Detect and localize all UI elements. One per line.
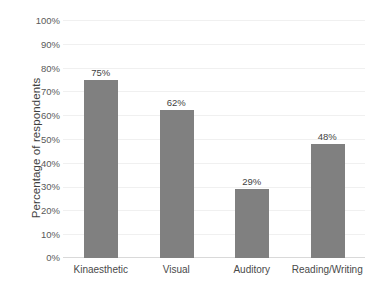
y-tick-label: 0% [20,253,60,263]
x-tick-label-reading-writing: Reading/Writing [280,263,375,276]
bars-layer: 75% 62% 29% 48% [63,20,365,258]
bar-slot-reading-writing: 48% [290,20,366,258]
y-tick-label: 100% [20,16,60,26]
x-axis-category-labels: Kinaesthetic Visual Auditory Reading/Wri… [63,263,365,283]
plot-area: 75% 62% 29% 48% [63,20,365,258]
y-tick-label: 50% [20,135,60,145]
y-tick-label: 30% [20,182,60,192]
bar-slot-kinaesthetic: 75% [63,20,139,258]
bar-value-label-auditory: 29% [214,176,290,187]
y-tick-label: 90% [20,40,60,50]
bar-value-label-visual: 62% [139,97,215,108]
y-tick-label: 40% [20,159,60,169]
y-tick-label: 10% [20,230,60,240]
y-tick-label: 20% [20,206,60,216]
y-axis-tick-labels: 100% 90% 80% 70% 60% 50% 40% 30% 20% 10%… [20,0,60,295]
bar-kinaesthetic[interactable] [84,80,118,259]
bar-value-label-reading-writing: 48% [290,131,366,142]
bar-value-label-kinaesthetic: 75% [63,67,139,78]
bar-visual[interactable] [160,110,194,258]
y-tick-label: 80% [20,64,60,74]
bar-reading-writing[interactable] [311,144,345,258]
bar-auditory[interactable] [235,189,269,258]
y-tick-label: 70% [20,87,60,97]
bar-slot-visual: 62% [139,20,215,258]
bar-chart: Percentage of respondents 100% 90% 80% 7… [0,0,381,295]
bar-slot-auditory: 29% [214,20,290,258]
y-tick-label: 60% [20,111,60,121]
